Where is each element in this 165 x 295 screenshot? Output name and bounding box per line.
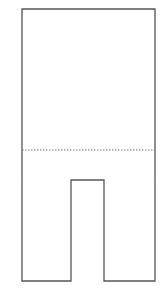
trousers-diagram: [0, 0, 165, 295]
trousers-outline: [22, 9, 155, 281]
